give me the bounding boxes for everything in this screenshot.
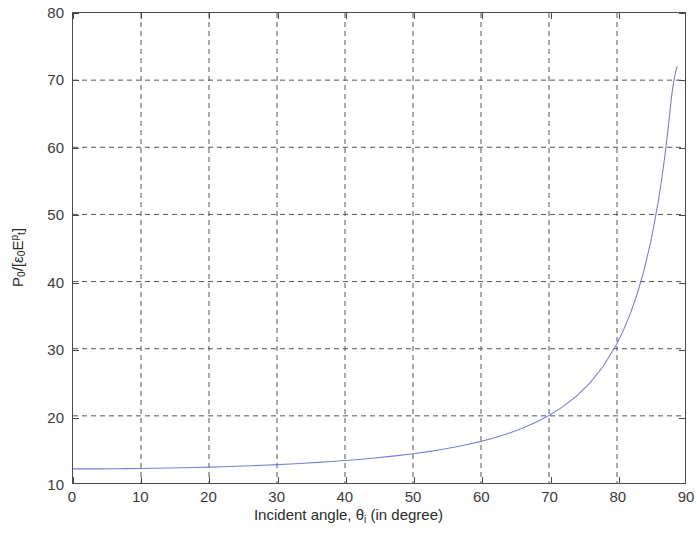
- x-tick-mark-top: [619, 13, 620, 19]
- x-tick-label: 0: [68, 488, 76, 505]
- y-axis-epsilon: ε: [9, 256, 26, 263]
- y-tick-mark: [73, 283, 79, 284]
- y-tick-mark-right: [679, 13, 685, 14]
- y-tick-label: 10: [16, 476, 64, 493]
- y-tick-mark: [73, 215, 79, 216]
- x-tick-label: 20: [200, 488, 217, 505]
- y-tick-mark-right: [679, 283, 685, 284]
- y-axis-close-bracket: ]: [9, 228, 26, 232]
- y-tick-label: 80: [16, 4, 64, 21]
- y-tick-mark-right: [679, 148, 685, 149]
- x-tick-mark: [141, 477, 142, 483]
- x-tick-mark-top: [209, 13, 210, 19]
- y-tick-mark-right: [679, 215, 685, 216]
- x-axis-theta-symbol: θi: [356, 506, 367, 525]
- y-axis-title: P0/[ε0Ept]: [9, 157, 28, 357]
- plot-area: [72, 12, 686, 484]
- x-tick-label: 70: [541, 488, 558, 505]
- x-tick-mark: [278, 477, 279, 483]
- x-tick-mark-top: [346, 13, 347, 19]
- x-axis-title-suffix: (in degree): [366, 506, 443, 523]
- y-tick-label: 20: [16, 408, 64, 425]
- x-tick-label: 80: [609, 488, 626, 505]
- x-tick-label: 90: [678, 488, 695, 505]
- x-tick-mark-top: [141, 13, 142, 19]
- y-tick-label: 60: [16, 138, 64, 155]
- y-tick-mark: [73, 13, 79, 14]
- y-axis-E-superscript: p: [9, 235, 20, 241]
- x-tick-mark: [482, 477, 483, 483]
- x-tick-mark-top: [482, 13, 483, 19]
- x-tick-mark-top: [551, 13, 552, 19]
- x-tick-label: 60: [473, 488, 490, 505]
- y-tick-mark: [73, 148, 79, 149]
- y-tick-mark: [73, 350, 79, 351]
- y-tick-mark-right: [679, 80, 685, 81]
- x-tick-mark: [619, 477, 620, 483]
- y-axis-epsilon-subscript: 0: [16, 251, 27, 257]
- x-tick-label: 30: [268, 488, 285, 505]
- x-tick-mark: [209, 477, 210, 483]
- y-tick-mark: [73, 80, 79, 81]
- x-tick-label: 40: [337, 488, 354, 505]
- curve-path: [73, 67, 678, 469]
- x-axis-title-prefix: Incident angle,: [254, 506, 356, 523]
- x-tick-mark-top: [414, 13, 415, 19]
- y-tick-mark-right: [679, 350, 685, 351]
- x-tick-label: 10: [132, 488, 149, 505]
- y-axis-slash-bracket: /[: [9, 263, 26, 271]
- x-axis-title: Incident angle, θi (in degree): [0, 506, 697, 525]
- x-tick-label: 50: [405, 488, 422, 505]
- x-tick-mark: [414, 477, 415, 483]
- x-tick-mark: [551, 477, 552, 483]
- y-axis-E: E: [9, 241, 26, 251]
- y-tick-label: 70: [16, 71, 64, 88]
- x-tick-mark-top: [278, 13, 279, 19]
- x-tick-mark: [73, 477, 74, 483]
- x-tick-mark: [346, 477, 347, 483]
- figure-canvas: 01020304050607080901020304050607080 Inci…: [0, 0, 697, 534]
- y-axis-P: P: [9, 277, 26, 287]
- y-axis-P-subscript: 0: [16, 271, 27, 277]
- y-tick-mark: [73, 418, 79, 419]
- y-tick-mark-right: [679, 418, 685, 419]
- data-curve: [73, 13, 685, 483]
- y-axis-E-subscript: t: [16, 232, 27, 235]
